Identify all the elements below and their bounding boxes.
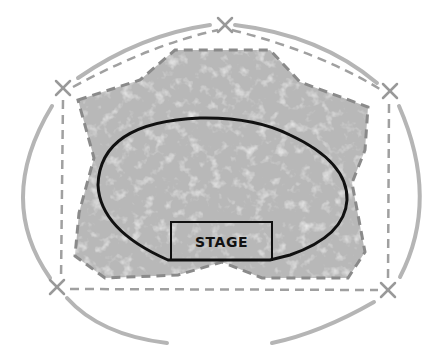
x-marker-icon <box>383 84 397 98</box>
x-marker-icon <box>218 18 232 32</box>
outer-arc-bottom-left <box>67 298 167 343</box>
x-marker-icon <box>50 280 64 294</box>
outer-arc-left <box>23 106 52 278</box>
venue-site-plan: STAGE <box>0 0 445 360</box>
stage-label: STAGE <box>195 234 248 250</box>
outer-arc-right <box>399 106 420 277</box>
x-marker-icon <box>56 81 70 95</box>
outer-arc-bottom-right <box>272 302 374 343</box>
x-marker-icon <box>381 283 395 297</box>
